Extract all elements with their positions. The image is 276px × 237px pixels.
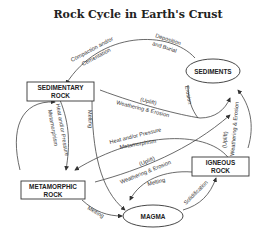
svg-text:SEDIMENTARY: SEDIMENTARY — [38, 84, 85, 91]
edge-sed-melting — [92, 100, 125, 210]
edge-ign-weathering — [238, 90, 251, 148]
svg-text:Weathering & Erosion: Weathering & Erosion — [229, 101, 240, 156]
node-sediments: SEDIMENTS — [186, 59, 240, 83]
node-metamorphic-rock: METAMORPHIC ROCK — [21, 181, 85, 199]
svg-text:METAMORPHIC: METAMORPHIC — [29, 183, 77, 190]
svg-text:Melting: Melting — [147, 176, 166, 186]
rock-cycle-diagram: SEDIMENTS SEDIMENTARY ROCK METAMORPHIC R… — [0, 0, 276, 237]
edge-solidification — [183, 178, 216, 210]
node-sedimentary-rock: SEDIMENTARY ROCK — [27, 82, 94, 101]
svg-text:IGNEOUS: IGNEOUS — [206, 159, 236, 166]
svg-text:ROCK: ROCK — [44, 191, 63, 198]
svg-text:Melting: Melting — [87, 110, 94, 128]
svg-text:Melting: Melting — [87, 205, 106, 219]
svg-text:(Uplift): (Uplift) — [221, 131, 228, 148]
node-igneous-rock: IGNEOUS ROCK — [192, 157, 249, 176]
node-magma: MAGMA — [123, 205, 183, 227]
sediments-label: SEDIMENTS — [194, 68, 232, 75]
svg-text:ROCK: ROCK — [51, 92, 70, 99]
svg-text:Erosion: Erosion — [184, 85, 193, 105]
magma-label: MAGMA — [141, 213, 166, 220]
svg-text:ROCK: ROCK — [211, 167, 230, 174]
svg-text:Solidification: Solidification — [182, 179, 208, 205]
